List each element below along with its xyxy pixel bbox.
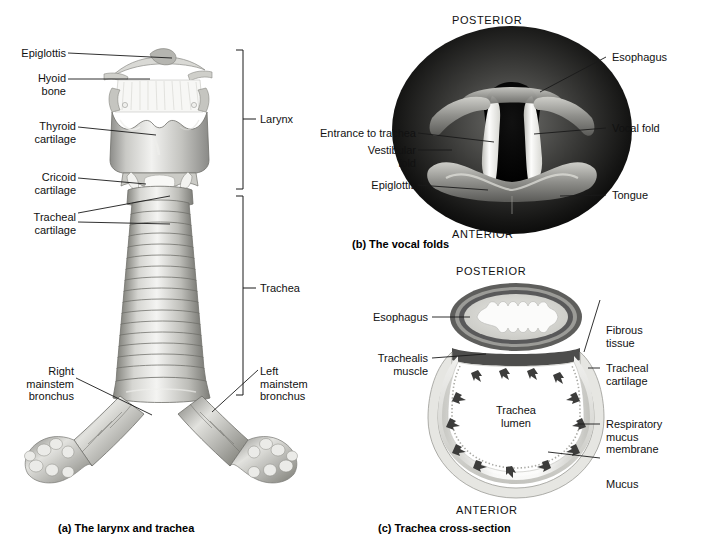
panel-a-artwork xyxy=(25,49,298,483)
label-fibrous-tissue: Fibrous tissue xyxy=(606,324,698,349)
label-left-mainstem-bronchus: Left mainstem bronchus xyxy=(260,365,332,403)
label-posterior-b: POSTERIOR xyxy=(452,14,572,26)
label-right-mainstem-bronchus: Right mainstem bronchus xyxy=(0,365,74,403)
figure-root: Epiglottis Hyoid bone Thyroid cartilage … xyxy=(0,0,701,547)
caption-panel-a: (a) The larynx and trachea xyxy=(58,522,194,534)
panel-c-artwork xyxy=(428,283,604,498)
caption-panel-c: (c) Trachea cross-section xyxy=(378,522,511,534)
label-trachealis-muscle: Trachealis muscle xyxy=(340,352,428,377)
label-epiglottis-b: Epiglottis xyxy=(300,179,416,192)
label-respiratory-mucus-membrane: Respiratory mucus membrane xyxy=(606,418,700,456)
caption-panel-b: (b) The vocal folds xyxy=(352,238,449,250)
label-larynx-bracket: Larynx xyxy=(260,113,330,126)
label-anterior-c: ANTERIOR xyxy=(456,504,576,516)
label-vestibular-fold: Vestibular fold xyxy=(300,144,416,169)
label-anterior-b: ANTERIOR xyxy=(452,228,572,240)
label-vocal-fold: Vocal fold xyxy=(612,122,698,135)
anatomy-artwork xyxy=(0,0,701,547)
left-mainstem-bronchus-art xyxy=(178,396,298,483)
label-cricoid-cartilage: Cricoid cartilage xyxy=(0,171,76,196)
label-posterior-c: POSTERIOR xyxy=(456,265,576,277)
label-trachea-lumen: Trachea lumen xyxy=(478,404,554,429)
panel-b-artwork xyxy=(392,26,632,234)
label-esophagus-c: Esophagus xyxy=(340,311,428,324)
label-tongue: Tongue xyxy=(612,189,698,202)
label-esophagus-b: Esophagus xyxy=(612,51,698,64)
right-mainstem-bronchus-art xyxy=(25,396,145,483)
label-tracheal-cartilage-c: Tracheal cartilage xyxy=(606,362,698,387)
label-hyoid-bone: Hyoid bone xyxy=(0,72,66,97)
label-epiglottis-a: Epiglottis xyxy=(0,47,66,60)
label-thyroid-cartilage: Thyroid cartilage xyxy=(0,120,76,145)
label-entrance-to-trachea: Entrance to trachea xyxy=(300,127,416,140)
label-trachea-bracket: Trachea xyxy=(260,282,330,295)
label-tracheal-cartilage-a: Tracheal cartilage xyxy=(0,211,76,236)
label-mucus: Mucus xyxy=(606,478,698,491)
